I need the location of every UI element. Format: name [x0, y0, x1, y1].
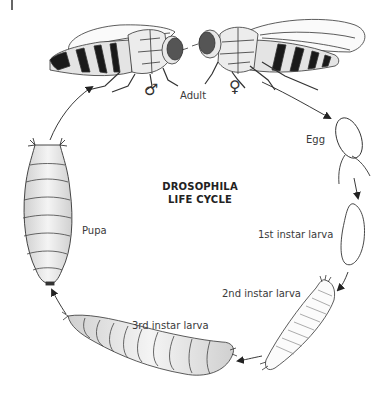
label-second-instar-larva: 2nd instar larva: [222, 288, 301, 299]
arrow-egg-to-larva1: [354, 178, 358, 198]
female-symbol: ♀: [229, 77, 241, 96]
female-fly-illustration: [192, 19, 365, 90]
male-symbol: ♂: [144, 80, 158, 99]
label-first-instar-larva: 1st instar larva: [258, 229, 333, 240]
arrow-larva3-to-pupa: [52, 290, 66, 314]
arrow-larva1-to-larva2: [338, 272, 348, 290]
life-cycle-diagram: ♂ ♀ Adult Egg 1st instar larva 2nd insta…: [0, 0, 390, 396]
label-egg: Egg: [306, 134, 325, 145]
male-fly-illustration: [50, 25, 188, 92]
egg-illustration: [331, 114, 370, 184]
label-adult: Adult: [180, 90, 206, 101]
pupa-illustration: [23, 138, 72, 285]
title-line-1: DROSOPHILA: [150, 180, 250, 193]
arrow-larva2-to-larva3: [238, 356, 262, 361]
diagram-title: DROSOPHILA LIFE CYCLE: [150, 180, 250, 206]
label-third-instar-larva: 3rd instar larva: [132, 320, 209, 331]
title-line-2: LIFE CYCLE: [150, 193, 250, 206]
arrow-pupa-to-adult: [50, 87, 92, 140]
first-instar-larva-illustration: [341, 204, 364, 265]
arrow-adult-to-egg: [262, 82, 330, 118]
label-pupa: Pupa: [82, 225, 107, 236]
